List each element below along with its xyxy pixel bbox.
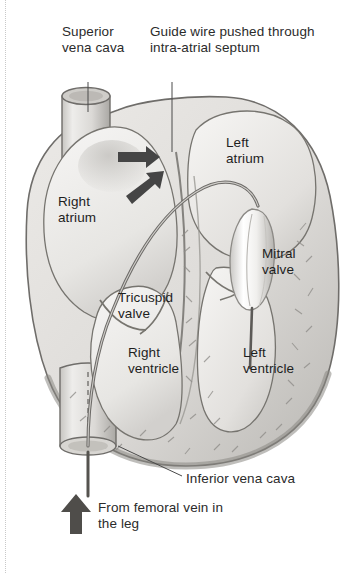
heart-diagram-figure: Superior vena cava Guide wire pushed thr… [0,0,358,573]
label-tricuspid-valve: Tricuspid valve [118,290,173,322]
callout-inferior-vena-cava: Inferior vena cava [186,471,295,487]
label-right-ventricle: Right ventricle [128,345,179,377]
callout-guide-wire: Guide wire pushed through intra-atrial s… [150,24,315,56]
label-right-atrium: Right atrium [58,194,96,226]
femoral-direction-arrow [61,494,91,534]
femoral-entry [61,452,91,534]
label-left-ventricle: Left ventricle [243,345,294,377]
callout-superior-vena-cava: Superior vena cava [62,24,124,56]
heart-illustration [0,0,358,573]
callout-from-femoral-vein: From femoral vein in the leg [98,500,223,532]
label-mitral-valve: Mitral valve [262,246,296,278]
label-left-atrium: Left atrium [226,135,264,167]
